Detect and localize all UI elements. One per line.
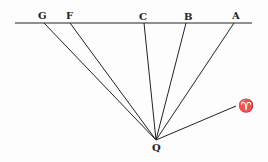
aries-icon: ♈ bbox=[238, 99, 254, 112]
label-g: G bbox=[38, 11, 47, 21]
line-qa bbox=[156, 23, 234, 140]
line-qc bbox=[144, 23, 156, 140]
label-q: Q bbox=[152, 143, 161, 153]
label-c: C bbox=[139, 12, 147, 22]
label-a: A bbox=[232, 11, 240, 21]
geometric-diagram: G F C B A Q ♈ bbox=[0, 0, 268, 162]
line-qf bbox=[70, 23, 156, 140]
line-q-aries bbox=[156, 106, 236, 140]
label-f: F bbox=[66, 11, 73, 21]
label-b: B bbox=[184, 12, 192, 22]
line-qg bbox=[44, 23, 156, 140]
diagram-lines bbox=[0, 0, 268, 162]
line-qb bbox=[156, 23, 186, 140]
